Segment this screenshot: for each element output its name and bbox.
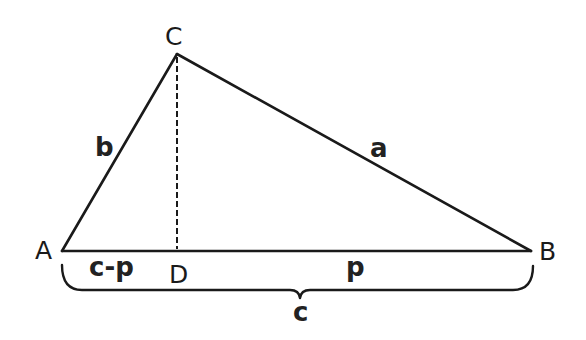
segment-label-ad: c-p [89,252,134,282]
side-label-a: a [370,133,388,163]
segment-label-db: p [346,252,365,282]
side-b-line [62,54,177,251]
side-a-line [177,54,531,251]
brace-label-c: c [293,297,308,327]
side-label-b: b [95,132,114,162]
vertex-label-d: D [169,260,188,289]
vertex-label-b: B [539,237,556,266]
vertex-label-a: A [35,236,52,265]
vertex-label-c: C [165,22,182,51]
triangle-diagram: C A B D b a c-p p c [0,0,586,340]
